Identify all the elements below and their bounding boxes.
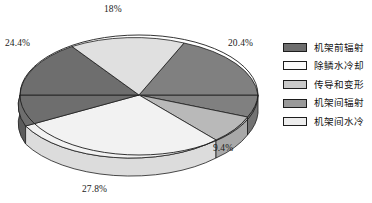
legend-label: 除鳞水冷却 bbox=[314, 61, 364, 71]
legend-item-rack-gap-radiation: 机架间辐射 bbox=[283, 94, 372, 113]
legend-label: 机架间水冷 bbox=[314, 117, 364, 127]
legend-item-pre-rack-radiation: 机架前辐射 bbox=[283, 38, 372, 57]
pie-label-pre-rack-radiation: 20.4% bbox=[228, 38, 253, 48]
legend-swatch-icon bbox=[283, 43, 307, 52]
legend-swatch-icon bbox=[283, 117, 307, 126]
legend-item-rack-gap-water-cooling: 机架间水冷 bbox=[283, 112, 372, 131]
pie-chart-figure: 18% 20.4% 9.4% 27.8% 24.4% 机架前辐射 除鳞水冷却 传… bbox=[0, 0, 372, 203]
legend-item-conduction-deformation: 传导和变形 bbox=[283, 75, 372, 94]
legend-swatch-icon bbox=[283, 80, 307, 89]
chart-legend: 机架前辐射 除鳞水冷却 传导和变形 机架间辐射 机架间水冷 bbox=[283, 38, 372, 131]
legend-item-descaling-water-cooling: 除鳞水冷却 bbox=[283, 57, 372, 76]
legend-label: 机架间辐射 bbox=[314, 98, 364, 108]
legend-label: 机架前辐射 bbox=[314, 43, 364, 53]
pie-svg bbox=[0, 0, 278, 203]
pie-plot-area: 18% 20.4% 9.4% 27.8% 24.4% bbox=[0, 0, 278, 203]
pie-label-rack-gap-radiation: 24.4% bbox=[5, 38, 30, 48]
legend-swatch-icon bbox=[283, 99, 307, 108]
pie-label-rack-gap-water-cooling: 18% bbox=[104, 4, 122, 14]
pie-label-descaling-water-cooling: 27.8% bbox=[82, 184, 107, 194]
legend-swatch-icon bbox=[283, 61, 307, 70]
legend-label: 传导和变形 bbox=[314, 80, 364, 90]
pie-label-conduction-deformation: 9.4% bbox=[213, 143, 233, 153]
